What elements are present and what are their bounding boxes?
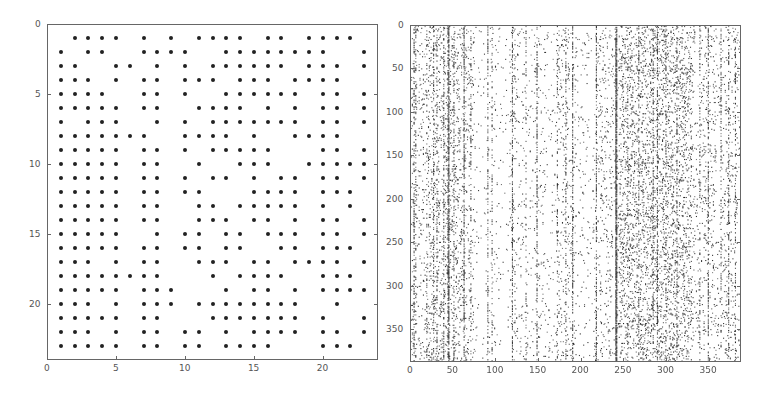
nonzero-marker	[335, 36, 339, 40]
nonzero-marker	[142, 218, 146, 222]
nonzero-marker	[211, 176, 215, 180]
nonzero-marker	[73, 344, 77, 348]
nonzero-marker	[183, 246, 187, 250]
nonzero-marker	[335, 134, 339, 138]
y-tick	[410, 199, 414, 200]
x-tick-label: 50	[447, 365, 458, 375]
nonzero-marker	[100, 50, 104, 54]
nonzero-marker	[211, 78, 215, 82]
nonzero-marker	[238, 36, 242, 40]
nonzero-marker	[197, 134, 201, 138]
nonzero-marker	[155, 92, 159, 96]
nonzero-marker	[279, 274, 283, 278]
right-spy-plot	[410, 25, 741, 362]
x-tick	[495, 358, 496, 362]
nonzero-marker	[59, 288, 63, 292]
nonzero-marker	[155, 190, 159, 194]
nonzero-marker	[335, 330, 339, 334]
nonzero-marker	[211, 316, 215, 320]
nonzero-marker	[252, 134, 256, 138]
nonzero-marker	[321, 330, 325, 334]
nonzero-marker	[293, 218, 297, 222]
nonzero-marker	[307, 64, 311, 68]
nonzero-marker	[155, 176, 159, 180]
nonzero-marker	[100, 204, 104, 208]
nonzero-marker	[293, 176, 297, 180]
nonzero-marker	[321, 246, 325, 250]
y-tick	[737, 286, 741, 287]
nonzero-marker	[362, 330, 366, 334]
nonzero-marker	[238, 344, 242, 348]
nonzero-marker	[155, 344, 159, 348]
nonzero-marker	[321, 78, 325, 82]
nonzero-marker	[86, 260, 90, 264]
nonzero-marker	[211, 260, 215, 264]
nonzero-marker	[73, 232, 77, 236]
nonzero-marker	[362, 106, 366, 110]
y-tick	[737, 112, 741, 113]
nonzero-marker	[169, 288, 173, 292]
nonzero-marker	[114, 162, 118, 166]
nonzero-marker	[59, 162, 63, 166]
nonzero-marker	[114, 204, 118, 208]
nonzero-marker	[114, 134, 118, 138]
nonzero-marker	[59, 218, 63, 222]
nonzero-marker	[100, 120, 104, 124]
nonzero-marker	[155, 204, 159, 208]
nonzero-marker	[362, 92, 366, 96]
y-tick	[410, 286, 414, 287]
nonzero-marker	[73, 176, 77, 180]
x-tick-label: 350	[700, 365, 717, 375]
nonzero-marker	[100, 288, 104, 292]
nonzero-marker	[279, 204, 283, 208]
nonzero-marker	[279, 36, 283, 40]
nonzero-marker	[197, 260, 201, 264]
nonzero-marker	[73, 316, 77, 320]
nonzero-marker	[362, 120, 366, 124]
nonzero-marker	[73, 288, 77, 292]
nonzero-marker	[114, 330, 118, 334]
x-tick	[47, 356, 48, 360]
nonzero-marker	[59, 50, 63, 54]
nonzero-marker	[211, 36, 215, 40]
nonzero-marker	[59, 302, 63, 306]
nonzero-marker	[86, 316, 90, 320]
nonzero-marker	[183, 190, 187, 194]
nonzero-marker	[183, 50, 187, 54]
nonzero-marker	[266, 190, 270, 194]
nonzero-marker	[114, 260, 118, 264]
nonzero-marker	[252, 260, 256, 264]
nonzero-marker	[266, 92, 270, 96]
nonzero-marker	[238, 64, 242, 68]
x-tick	[623, 358, 624, 362]
nonzero-marker	[114, 176, 118, 180]
nonzero-marker	[59, 246, 63, 250]
nonzero-marker	[155, 260, 159, 264]
nonzero-marker	[266, 274, 270, 278]
nonzero-marker	[183, 92, 187, 96]
nonzero-marker	[100, 218, 104, 222]
y-tick	[374, 164, 378, 165]
nonzero-marker	[59, 92, 63, 96]
nonzero-marker	[142, 288, 146, 292]
nonzero-marker	[142, 78, 146, 82]
nonzero-marker	[128, 64, 132, 68]
nonzero-marker	[114, 288, 118, 292]
nonzero-marker	[335, 288, 339, 292]
nonzero-marker	[307, 36, 311, 40]
nonzero-marker	[279, 176, 283, 180]
nonzero-marker	[307, 260, 311, 264]
nonzero-marker	[266, 106, 270, 110]
nonzero-marker	[155, 232, 159, 236]
nonzero-marker	[100, 36, 104, 40]
x-tick	[410, 358, 411, 362]
nonzero-marker	[100, 274, 104, 278]
y-tick-label: 50	[392, 63, 403, 73]
nonzero-marker	[86, 120, 90, 124]
nonzero-marker	[86, 92, 90, 96]
nonzero-marker	[266, 50, 270, 54]
x-tick-label: 0	[407, 365, 413, 375]
nonzero-marker	[238, 316, 242, 320]
nonzero-marker	[142, 190, 146, 194]
nonzero-marker	[252, 218, 256, 222]
